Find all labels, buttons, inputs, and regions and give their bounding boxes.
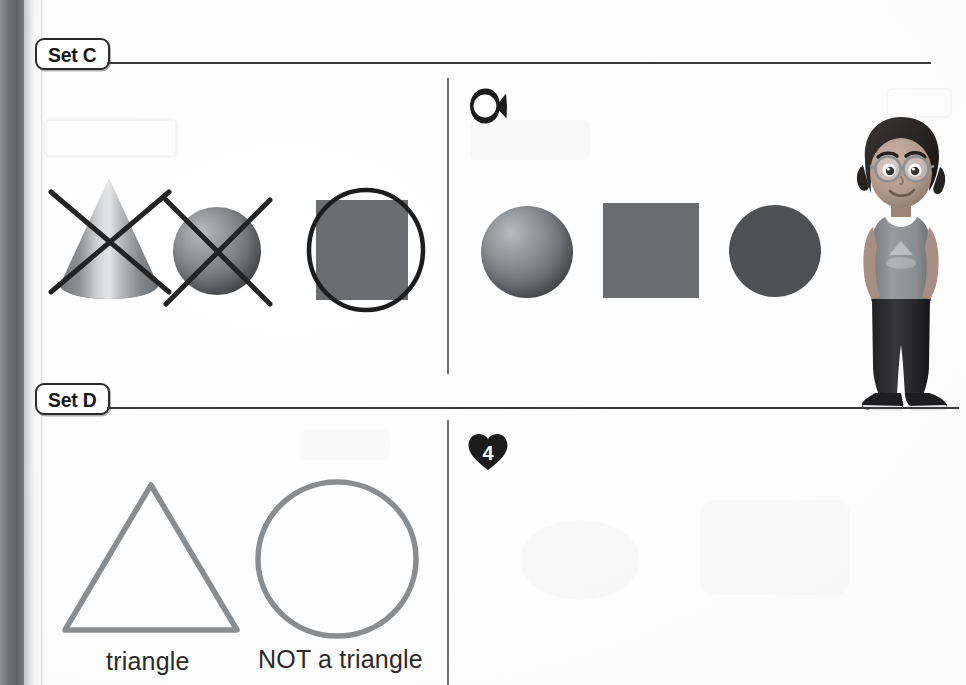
pants xyxy=(872,299,930,395)
page-edge xyxy=(41,0,44,685)
character-illustration-girl xyxy=(845,113,957,413)
cross-out-mark-cone xyxy=(44,180,176,302)
shape-triangle-outline xyxy=(58,478,244,638)
heart-icon xyxy=(466,430,510,474)
book-spine-shadow xyxy=(0,0,24,685)
caption-not-a-triangle: NOT a triangle xyxy=(258,645,423,674)
set-d-divider-rule xyxy=(107,407,959,409)
caption-triangle: triangle xyxy=(106,647,190,676)
question-4-answer-area[interactable] xyxy=(470,470,950,680)
question-4-number-badge: 4 xyxy=(466,430,510,474)
shape-sphere-answer[interactable] xyxy=(481,206,573,298)
cross-out-mark-sphere xyxy=(160,194,276,310)
set-d-badge: Set D xyxy=(35,383,110,415)
fish-icon xyxy=(466,84,510,128)
question-3-number-badge: 3 xyxy=(466,84,510,128)
set-c-badge: Set C xyxy=(35,38,110,70)
set-d-label: Set D xyxy=(48,389,96,410)
bleed-through-ghost xyxy=(44,118,178,158)
bleed-through-ghost xyxy=(300,430,390,460)
set-d-column-divider xyxy=(447,420,449,685)
set-c-divider-rule xyxy=(107,62,931,64)
answer-circle-mark xyxy=(304,186,428,314)
workbook-page: Set C 3 xyxy=(0,0,966,685)
set-c-label: Set C xyxy=(48,44,96,65)
shape-circle-answer[interactable] xyxy=(729,205,821,297)
shape-circle-outline xyxy=(252,476,422,642)
set-c-column-divider xyxy=(447,78,449,374)
shape-square-answer[interactable] xyxy=(603,203,699,298)
